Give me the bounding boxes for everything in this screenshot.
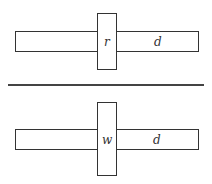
top-horizontal-label: d: [154, 36, 162, 48]
divider-line: [8, 84, 204, 86]
bottom-horizontal-label: d: [153, 134, 161, 146]
top-vertical-label: r: [104, 36, 110, 48]
bottom-vertical-label: w: [102, 134, 112, 146]
